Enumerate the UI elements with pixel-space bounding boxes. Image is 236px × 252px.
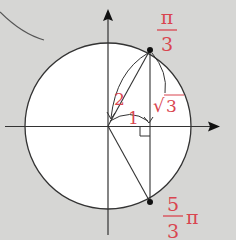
decorative-curve [0,12,44,40]
diagram-canvas: 2 1 √ 3 π 3 5 3 π [0,0,236,252]
label-angle-top-numerator: π [161,6,174,28]
unit-circle-diagram: 2 1 √ 3 π 3 5 3 π [0,0,236,252]
label-angle-bottom-denominator: 3 [167,220,179,242]
label-height-value: 3 [166,96,177,116]
label-sqrt-sign: √ [153,95,165,116]
label-angle-top-denominator: 3 [161,33,173,55]
point-pi-over-3 [147,47,153,53]
point-5pi-over-3 [147,199,153,205]
label-hypotenuse: 2 [114,89,125,109]
label-angle-bottom-numerator: 5 [167,193,179,215]
label-angle-bottom-pi: π [186,206,199,228]
label-base: 1 [128,108,139,128]
